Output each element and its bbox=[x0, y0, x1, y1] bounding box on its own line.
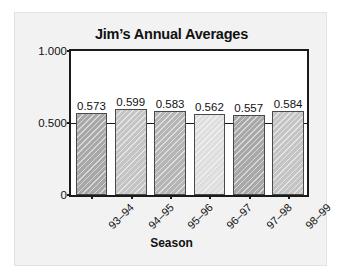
chart-card: Jim’s Annual Averages Average 1.000 0.50… bbox=[14, 12, 327, 266]
bar-value-label: 0.599 bbox=[109, 96, 152, 108]
bar-94-95[interactable]: 0.599 bbox=[115, 109, 147, 195]
bar-93-94[interactable]: 0.573 bbox=[76, 113, 108, 196]
bar-value-label: 0.583 bbox=[149, 98, 192, 110]
x-tick-mark bbox=[288, 195, 290, 199]
bar-95-96[interactable]: 0.583 bbox=[154, 111, 186, 195]
bar-slot: 0.573 93–94 bbox=[73, 51, 111, 195]
chart-title: Jim’s Annual Averages bbox=[15, 26, 328, 42]
x-tick-label-97-98: 97–98 bbox=[264, 201, 294, 231]
x-tick-mark bbox=[209, 195, 211, 199]
bar-slot: 0.584 98–99 bbox=[269, 51, 307, 195]
bars-layer: 0.573 93–94 0.599 94–95 0.583 95–96 bbox=[71, 51, 307, 195]
bar-value-label: 0.562 bbox=[188, 101, 231, 113]
bar-96-97[interactable]: 0.562 bbox=[194, 114, 226, 195]
bar-98-99[interactable]: 0.584 bbox=[272, 111, 304, 195]
bar-value-label: 0.573 bbox=[70, 100, 113, 112]
bar-slot: 0.557 97–98 bbox=[230, 51, 268, 195]
x-tick-mark bbox=[170, 195, 172, 199]
bar-slot: 0.599 94–95 bbox=[112, 51, 150, 195]
x-tick-label-94-95: 94–95 bbox=[146, 201, 176, 231]
x-tick-label-93-94: 93–94 bbox=[106, 201, 136, 231]
x-tick-label-98-99: 98–99 bbox=[303, 201, 333, 231]
y-tick-label-0500: 0.500 bbox=[38, 117, 67, 129]
bar-value-label: 0.557 bbox=[227, 102, 270, 114]
x-tick-mark bbox=[131, 195, 133, 199]
x-tick-mark bbox=[249, 195, 251, 199]
y-tick-label-0: 0 bbox=[61, 189, 67, 201]
y-tick-label-1000: 1.000 bbox=[38, 45, 67, 57]
bar-97-98[interactable]: 0.557 bbox=[233, 115, 265, 195]
plot-area: 1.000 0.500 0 0.573 93–94 0.599 94–95 bbox=[69, 49, 309, 197]
bar-slot: 0.562 96–97 bbox=[191, 51, 229, 195]
x-tick-label-96-97: 96–97 bbox=[224, 201, 254, 231]
bar-value-label: 0.584 bbox=[267, 98, 310, 110]
x-tick-label-95-96: 95–96 bbox=[185, 201, 215, 231]
x-tick-mark bbox=[91, 195, 93, 199]
bar-slot: 0.583 95–96 bbox=[151, 51, 189, 195]
x-axis-title: Season bbox=[15, 236, 328, 250]
